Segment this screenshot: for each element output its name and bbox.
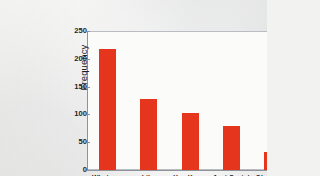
x-axis-spine bbox=[87, 170, 267, 171]
x-axis-tick-label: Obviously bbox=[232, 174, 267, 176]
y-axis-tick-label: 0 bbox=[61, 166, 87, 174]
y-axis-tick: 150 bbox=[57, 87, 87, 88]
y-axis-tick-label: 50 bbox=[61, 138, 87, 146]
bar bbox=[99, 49, 116, 170]
y-axis-tick: 50 bbox=[57, 142, 87, 143]
bar bbox=[223, 126, 240, 170]
y-axis-tick-label: 200 bbox=[61, 55, 87, 63]
bar bbox=[264, 152, 267, 170]
y-axis-tick-label: 100 bbox=[61, 110, 87, 118]
bar bbox=[182, 113, 199, 170]
bar bbox=[140, 99, 157, 170]
y-axis-tick: 100 bbox=[57, 114, 87, 115]
y-axis-tick-label: 250 bbox=[61, 27, 87, 35]
y-axis-tick-label: 150 bbox=[61, 83, 87, 91]
bar-chart-figure: Frequency 050100150200250 WhateverLikeYo… bbox=[40, 16, 227, 160]
bar-series bbox=[87, 31, 267, 170]
y-axis-tick-mark bbox=[87, 170, 90, 171]
y-axis-tick: 200 bbox=[57, 59, 87, 60]
y-axis-tick: 250 bbox=[57, 31, 87, 32]
y-axis-tick: 0 bbox=[57, 170, 87, 171]
